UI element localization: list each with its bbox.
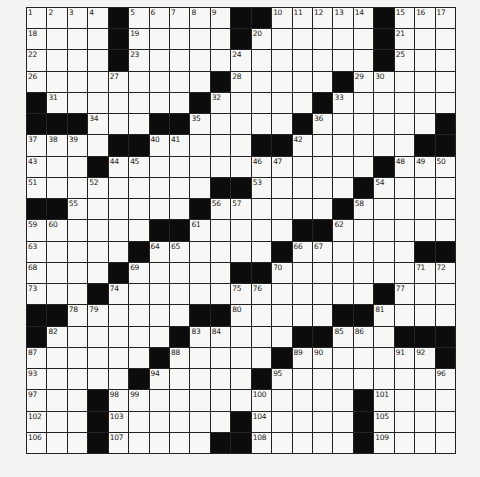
grid-cell[interactable]: 71	[415, 263, 434, 283]
grid-cell[interactable]	[415, 114, 434, 134]
grid-cell[interactable]: 21	[395, 29, 414, 49]
grid-cell[interactable]	[252, 72, 271, 92]
grid-cell[interactable]: 42	[293, 135, 312, 155]
grid-cell[interactable]	[415, 50, 434, 70]
grid-cell[interactable]	[109, 305, 128, 325]
grid-cell[interactable]	[395, 242, 414, 262]
grid-cell[interactable]: 100	[252, 390, 271, 410]
grid-cell[interactable]: 35	[190, 114, 209, 134]
grid-cell[interactable]: 101	[374, 390, 393, 410]
grid-cell[interactable]	[211, 29, 230, 49]
grid-cell[interactable]	[354, 220, 373, 240]
grid-cell[interactable]	[272, 305, 291, 325]
grid-cell[interactable]	[88, 93, 107, 113]
grid-cell[interactable]	[68, 284, 87, 304]
grid-cell[interactable]	[374, 135, 393, 155]
grid-cell[interactable]	[47, 72, 66, 92]
grid-cell[interactable]: 15	[395, 8, 414, 28]
grid-cell[interactable]	[231, 242, 250, 262]
grid-cell[interactable]	[272, 199, 291, 219]
grid-cell[interactable]	[354, 114, 373, 134]
grid-cell[interactable]	[88, 242, 107, 262]
grid-cell[interactable]: 1	[27, 8, 46, 28]
grid-cell[interactable]	[211, 390, 230, 410]
grid-cell[interactable]: 28	[231, 72, 250, 92]
grid-cell[interactable]: 78	[68, 305, 87, 325]
grid-cell[interactable]	[313, 369, 332, 389]
grid-cell[interactable]	[395, 220, 414, 240]
grid-cell[interactable]	[129, 93, 148, 113]
grid-cell[interactable]: 5	[129, 8, 148, 28]
grid-cell[interactable]	[190, 390, 209, 410]
grid-cell[interactable]	[211, 284, 230, 304]
grid-cell[interactable]	[293, 305, 312, 325]
grid-cell[interactable]	[395, 263, 414, 283]
grid-cell[interactable]: 54	[374, 178, 393, 198]
grid-cell[interactable]: 26	[27, 72, 46, 92]
grid-cell[interactable]	[109, 220, 128, 240]
grid-cell[interactable]	[272, 93, 291, 113]
grid-cell[interactable]	[313, 157, 332, 177]
grid-cell[interactable]	[272, 220, 291, 240]
grid-cell[interactable]	[47, 50, 66, 70]
grid-cell[interactable]	[374, 242, 393, 262]
grid-cell[interactable]	[231, 348, 250, 368]
grid-cell[interactable]	[272, 50, 291, 70]
grid-cell[interactable]: 77	[395, 284, 414, 304]
grid-cell[interactable]	[88, 369, 107, 389]
grid-cell[interactable]	[190, 348, 209, 368]
grid-cell[interactable]	[415, 220, 434, 240]
grid-cell[interactable]	[88, 29, 107, 49]
grid-cell[interactable]	[252, 242, 271, 262]
grid-cell[interactable]	[211, 242, 230, 262]
grid-cell[interactable]	[272, 284, 291, 304]
grid-cell[interactable]	[395, 178, 414, 198]
grid-cell[interactable]	[231, 390, 250, 410]
grid-cell[interactable]	[313, 433, 332, 453]
grid-cell[interactable]	[333, 242, 352, 262]
grid-cell[interactable]	[150, 433, 169, 453]
grid-cell[interactable]	[436, 72, 455, 92]
grid-cell[interactable]: 51	[27, 178, 46, 198]
grid-cell[interactable]	[333, 178, 352, 198]
grid-cell[interactable]: 103	[109, 412, 128, 432]
grid-cell[interactable]	[293, 50, 312, 70]
grid-cell[interactable]	[374, 327, 393, 347]
grid-cell[interactable]: 106	[27, 433, 46, 453]
grid-cell[interactable]	[436, 178, 455, 198]
grid-cell[interactable]	[231, 114, 250, 134]
grid-cell[interactable]	[374, 348, 393, 368]
grid-cell[interactable]	[109, 327, 128, 347]
grid-cell[interactable]	[231, 93, 250, 113]
grid-cell[interactable]	[333, 412, 352, 432]
grid-cell[interactable]	[333, 135, 352, 155]
grid-cell[interactable]: 31	[47, 93, 66, 113]
grid-cell[interactable]: 107	[109, 433, 128, 453]
grid-cell[interactable]: 12	[313, 8, 332, 28]
grid-cell[interactable]	[170, 369, 189, 389]
grid-cell[interactable]: 16	[415, 8, 434, 28]
grid-cell[interactable]	[170, 433, 189, 453]
grid-cell[interactable]	[68, 412, 87, 432]
grid-cell[interactable]	[109, 178, 128, 198]
grid-cell[interactable]: 47	[272, 157, 291, 177]
grid-cell[interactable]: 67	[313, 242, 332, 262]
grid-cell[interactable]	[272, 327, 291, 347]
grid-cell[interactable]	[354, 348, 373, 368]
grid-cell[interactable]	[150, 284, 169, 304]
grid-cell[interactable]	[231, 220, 250, 240]
grid-cell[interactable]	[374, 220, 393, 240]
grid-cell[interactable]: 8	[190, 8, 209, 28]
grid-cell[interactable]	[68, 29, 87, 49]
grid-cell[interactable]: 39	[68, 135, 87, 155]
grid-cell[interactable]	[170, 263, 189, 283]
grid-cell[interactable]	[47, 433, 66, 453]
grid-cell[interactable]: 99	[129, 390, 148, 410]
grid-cell[interactable]: 81	[374, 305, 393, 325]
grid-cell[interactable]	[333, 157, 352, 177]
grid-cell[interactable]: 22	[27, 50, 46, 70]
grid-cell[interactable]	[313, 178, 332, 198]
grid-cell[interactable]	[313, 29, 332, 49]
grid-cell[interactable]	[190, 263, 209, 283]
grid-cell[interactable]	[313, 135, 332, 155]
